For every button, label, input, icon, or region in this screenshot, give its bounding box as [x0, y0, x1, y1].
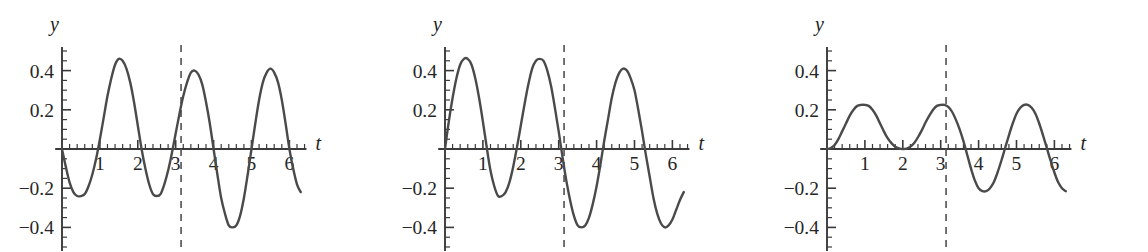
y-tick-label: 0.4 — [30, 61, 55, 82]
figure-panel-row: 1234560.40.2−0.2−0.4yt1234560.40.2−0.2−0… — [0, 0, 1148, 252]
x-tick-label: 5 — [1012, 153, 1022, 174]
y-tick-label: 0.2 — [30, 100, 54, 121]
y-tick-label: −0.4 — [401, 217, 437, 238]
x-tick-label: 2 — [898, 153, 908, 174]
x-tick-label: 6 — [667, 153, 677, 174]
x-tick-label: 2 — [133, 153, 143, 174]
y-tick-label: 0.4 — [795, 61, 820, 82]
y-tick-label: −0.4 — [19, 217, 55, 238]
y-tick-label: 0.2 — [412, 100, 436, 121]
chart-panel-3: 1234560.40.2−0.2−0.4yt — [765, 0, 1148, 252]
chart-panel-1: 1234560.40.2−0.2−0.4yt — [0, 0, 383, 252]
x-axis-label: t — [1081, 132, 1087, 154]
y-tick-label: −0.4 — [784, 217, 820, 238]
x-tick-label: 1 — [860, 153, 870, 174]
y-tick-label: 0.2 — [795, 100, 819, 121]
x-axis-label: t — [698, 132, 704, 154]
x-tick-label: 2 — [516, 153, 526, 174]
x-tick-label: 4 — [974, 153, 984, 174]
y-tick-label: 0.4 — [412, 61, 437, 82]
chart-panel-2: 1234560.40.2−0.2−0.4yt — [383, 0, 766, 252]
y-tick-label: −0.2 — [19, 178, 54, 199]
y-axis-label: y — [48, 13, 59, 36]
x-tick-label: 5 — [629, 153, 639, 174]
y-axis-label: y — [431, 13, 442, 36]
x-tick-label: 3 — [936, 153, 946, 174]
x-axis-label: t — [315, 132, 321, 154]
y-tick-label: −0.2 — [401, 178, 436, 199]
y-tick-label: −0.2 — [784, 178, 819, 199]
x-tick-label: 1 — [478, 153, 488, 174]
y-axis-label: y — [813, 13, 824, 36]
